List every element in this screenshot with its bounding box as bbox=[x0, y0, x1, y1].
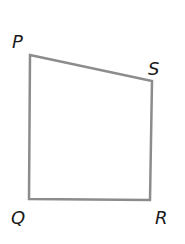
quadrilateral-diagram: P S Q R bbox=[0, 0, 185, 244]
vertex-label-q: Q bbox=[11, 207, 25, 228]
quadrilateral-pqrs bbox=[29, 55, 152, 200]
vertex-label-p: P bbox=[12, 31, 23, 52]
vertex-label-s: S bbox=[148, 58, 159, 79]
vertex-label-r: R bbox=[155, 207, 168, 228]
